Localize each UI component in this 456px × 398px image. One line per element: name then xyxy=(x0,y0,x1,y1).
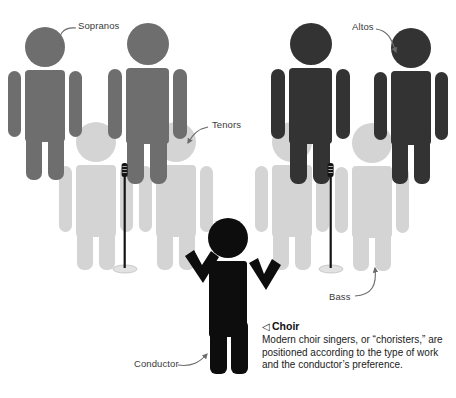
caption-heading: ◁Choir xyxy=(262,320,452,333)
caption-block: ◁Choir Modern choir singers, or “chorist… xyxy=(262,320,452,372)
caption-marker-icon: ◁ xyxy=(262,321,270,332)
figure-alto-left xyxy=(271,23,350,184)
label-bass: Bass xyxy=(329,291,351,302)
label-altos: Altos xyxy=(352,21,374,32)
figure-soprano-left xyxy=(8,27,82,180)
caption-heading-text: Choir xyxy=(272,320,299,332)
label-tenors: Tenors xyxy=(212,119,241,130)
choir-diagram: Sopranos Tenors Altos Bass Conductor ◁Ch… xyxy=(0,0,456,398)
arrow-bass xyxy=(355,268,375,296)
label-sopranos: Sopranos xyxy=(78,20,119,31)
arrow-conductor xyxy=(178,354,207,365)
label-conductor: Conductor xyxy=(134,358,179,369)
caption-body: Modern choir singers, or “choristers,” a… xyxy=(262,334,452,372)
figure-alto-right xyxy=(374,28,448,184)
figure-tenor-left xyxy=(59,122,133,270)
